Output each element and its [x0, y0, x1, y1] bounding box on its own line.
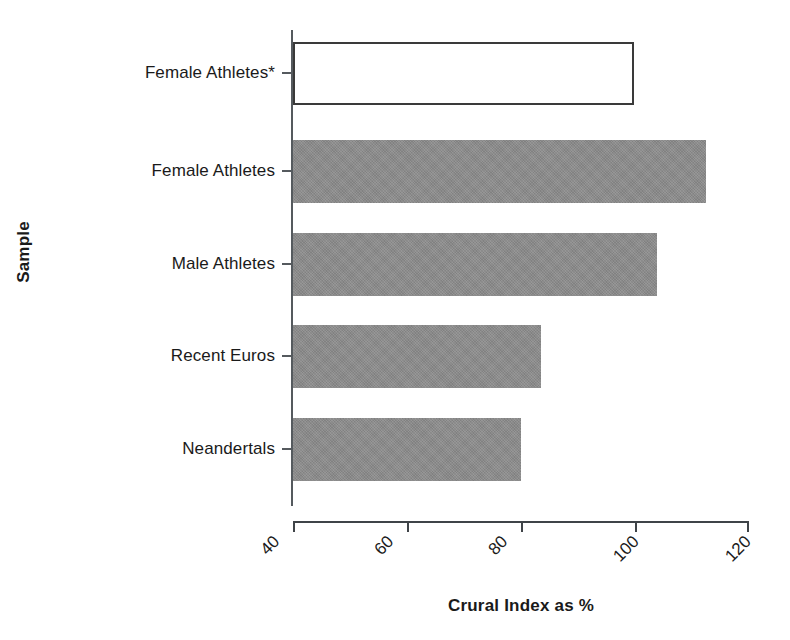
bar-male-athletes — [293, 233, 657, 296]
y-axis-tick-mark — [282, 170, 293, 172]
x-axis-tick-label: 100 — [609, 532, 643, 566]
y-axis-category-female-athletes: Female Athletes — [0, 161, 293, 181]
y-axis-category-neandertals: Neandertals — [0, 439, 293, 459]
y-axis-tick-mark — [282, 72, 293, 74]
x-axis-tick-mark — [635, 521, 637, 532]
x-axis-tick-mark — [293, 521, 295, 532]
x-axis-tick-label: 60 — [371, 532, 399, 560]
crural-index-bar-chart: Sample Female Athletes* Female Athletes … — [0, 0, 790, 640]
x-axis-title: Crural Index as % — [293, 596, 749, 616]
y-axis-tick-label: Recent Euros — [171, 346, 275, 366]
bar-female-athletes-star — [293, 42, 634, 105]
x-axis-tick-label: 120 — [721, 532, 755, 566]
bar-female-athletes — [293, 140, 706, 203]
y-axis-tick-label: Female Athletes* — [145, 63, 275, 83]
y-axis-category-male-athletes: Male Athletes — [0, 254, 293, 274]
bar-neandertals — [293, 418, 521, 481]
x-axis-tick-label: 40 — [257, 532, 285, 560]
x-axis-tick-label: 80 — [485, 532, 513, 560]
y-axis-title: Sample — [14, 182, 34, 322]
y-axis-tick-mark — [282, 263, 293, 265]
y-axis-category-female-athletes-star: Female Athletes* — [0, 63, 293, 83]
y-axis-tick-label: Female Athletes — [152, 161, 275, 181]
plot-area — [293, 30, 748, 505]
x-axis-tick-mark — [407, 521, 409, 532]
y-axis-tick-mark — [282, 355, 293, 357]
y-axis-tick-label: Neandertals — [182, 439, 275, 459]
y-axis-tick-mark — [282, 448, 293, 450]
y-axis-tick-label: Male Athletes — [172, 254, 275, 274]
bar-recent-euros — [293, 325, 541, 388]
x-axis-tick-mark — [747, 521, 749, 532]
y-axis-category-recent-euros: Recent Euros — [0, 346, 293, 366]
x-axis-tick-mark — [521, 521, 523, 532]
